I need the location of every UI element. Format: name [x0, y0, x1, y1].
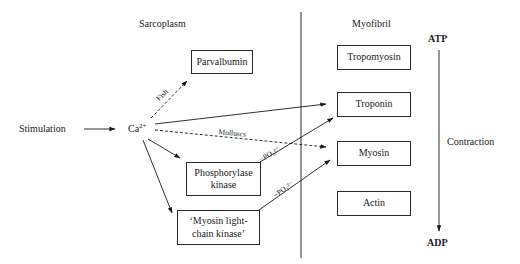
- node-parvalbumin-label: Parvalbumin: [196, 56, 247, 69]
- node-myosin-light-chain-kinase: ‘Myosin light- chain kinase’: [177, 210, 260, 245]
- node-parvalbumin: Parvalbumin: [191, 50, 253, 74]
- edge-calcium-to-parvalbumin: [151, 81, 187, 118]
- energy-label-contraction: Contraction: [447, 137, 494, 147]
- node-phosphorylase-kinase-line1: Phosphorylase: [194, 167, 252, 180]
- edge-calcium-to-troponin: [155, 104, 326, 124]
- region-label-myofibril: Myofibril: [352, 19, 391, 29]
- node-phosphorylase-kinase-line2: kinase: [211, 179, 237, 192]
- node-tropomyosin-label: Tropomyosin: [347, 51, 401, 64]
- node-mlck-line1: ‘Myosin light-: [189, 215, 247, 228]
- node-myosin: Myosin: [337, 141, 411, 166]
- node-calcium: Ca2+: [128, 124, 147, 134]
- calcium-charge: 2+: [139, 122, 146, 130]
- energy-label-atp: ATP: [428, 34, 447, 44]
- region-label-sarcoplasm: Sarcoplasm: [139, 19, 186, 29]
- node-troponin-label: Troponin: [356, 98, 393, 111]
- node-actin-label: Actin: [363, 197, 385, 210]
- edge-calcium-to-phosphorylase-kinase: [148, 139, 180, 158]
- node-actin: Actin: [337, 191, 411, 216]
- node-troponin: Troponin: [337, 92, 411, 117]
- energy-label-adp: ADP: [427, 238, 448, 248]
- node-phosphorylase-kinase: Phosphorylase kinase: [186, 162, 261, 196]
- calcium-symbol: Ca: [128, 123, 139, 134]
- node-mlck-line2: chain kinase’: [192, 228, 245, 241]
- node-stimulation: Stimulation: [19, 124, 66, 134]
- node-tropomyosin: Tropomyosin: [337, 45, 411, 70]
- node-myosin-label: Myosin: [359, 147, 390, 160]
